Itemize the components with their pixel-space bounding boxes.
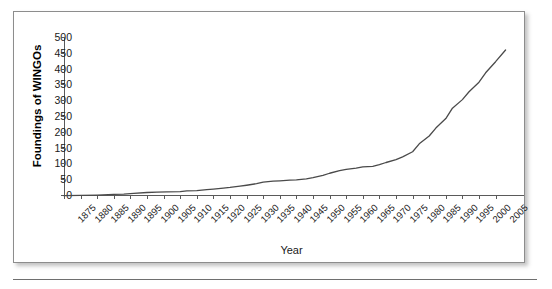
data-series-line bbox=[64, 37, 519, 196]
x-axis-title: Year bbox=[64, 244, 519, 256]
chart-area: Foundings of WINGOs 50045040035030025020… bbox=[14, 12, 526, 264]
chart-figure-box: Foundings of WINGOs 50045040035030025020… bbox=[13, 11, 525, 263]
screenshot-page: Foundings of WINGOs 50045040035030025020… bbox=[0, 0, 552, 289]
x-axis-tick-label: 2005 bbox=[507, 202, 530, 225]
page-divider-rule bbox=[13, 279, 537, 280]
